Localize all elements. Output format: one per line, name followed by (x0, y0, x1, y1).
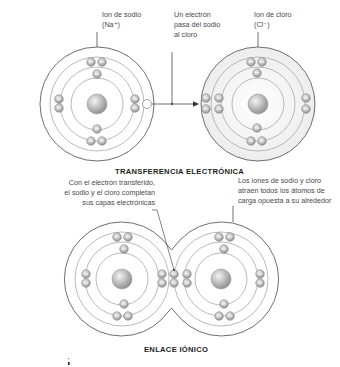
sodium-ion-symbol: (Na⁺) (102, 20, 141, 30)
section-title-ionic-bond: ENLACE IÓNICO (144, 345, 208, 354)
chloride-ion-label: Ion de cloro (Cl⁻) (254, 10, 292, 30)
sodium-ion-label-line1: Ion de sodio (102, 10, 141, 20)
chloride-ion-label-line1: Ion de cloro (254, 10, 292, 20)
transfer-arrow (152, 52, 199, 107)
transfer-label: Un electrón pasa del sodio al cloro (174, 10, 220, 40)
completed-shells-note-line2: el sodio y el cloro completan (64, 188, 155, 198)
chlorine-nucleus-bonded (211, 269, 231, 289)
attraction-note-line3: carga opuesta a su alrededor (238, 196, 332, 206)
chlorine-atom-top (201, 47, 315, 161)
completed-shells-note-line3: sus capas electrónicas (64, 198, 155, 208)
transfer-label-line1: Un electrón (174, 10, 220, 20)
sodium-atom-top (40, 47, 154, 161)
completed-shells-note-line1: Con el electrón transferido, (64, 178, 155, 188)
sodium-nucleus-bonded (112, 269, 132, 289)
completed-shells-note: Con el electrón transferido, el sodio y … (64, 178, 155, 208)
transfer-label-line2: pasa del sodio (174, 20, 220, 30)
ionic-bond-pair (64, 222, 278, 336)
transfer-label-line3: al cloro (174, 30, 220, 40)
chloride-ion-symbol: (Cl⁻) (254, 20, 292, 30)
section-title-electron-transfer: TRANSFERENCIA ELECTRÓNICA (115, 167, 244, 176)
chlorine-nucleus (248, 94, 268, 114)
attraction-note-line1: Los iones de sodio y cloro (238, 176, 332, 186)
attraction-note-line2: atraen todos los átomos de (238, 186, 332, 196)
sodium-ion-label: Ion de sodio (Na⁺) (102, 10, 141, 30)
sodium-nucleus (87, 94, 107, 114)
transferred-electron-vacancy (143, 100, 152, 109)
attraction-note: Los iones de sodio y cloro atraen todos … (238, 176, 332, 206)
